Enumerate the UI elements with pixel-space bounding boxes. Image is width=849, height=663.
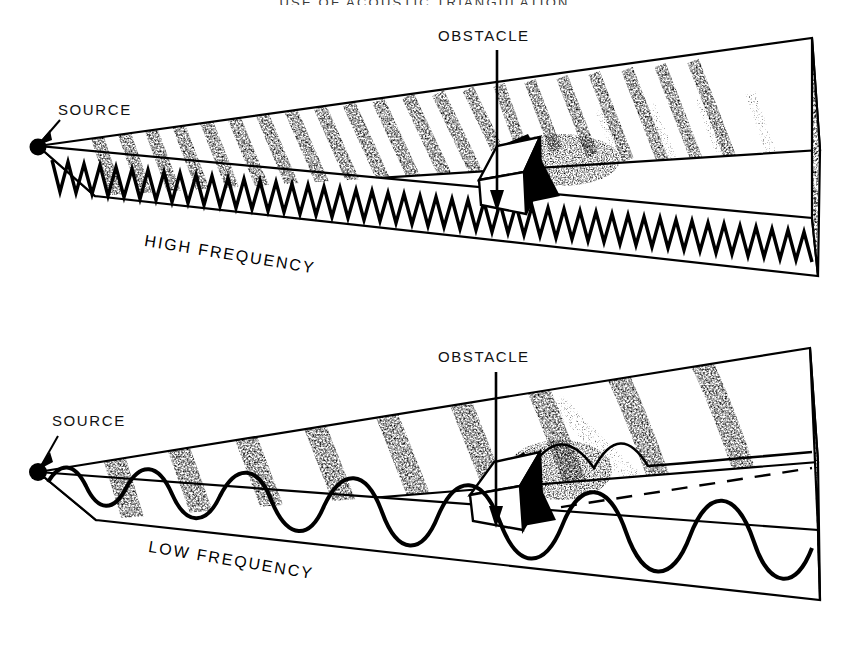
obstacle-label-low: OBSTACLE xyxy=(438,348,530,365)
panel-low-frequency xyxy=(29,348,820,600)
obstacle-label-high: OBSTACLE xyxy=(438,27,530,44)
source-label-high: SOURCE xyxy=(58,101,132,118)
source-label-low: SOURCE xyxy=(52,412,126,429)
figure-canvas: USE OF ACOUSTIC TRIANGULATION SOURCE OBS… xyxy=(0,0,849,663)
diffraction-diagram-svg xyxy=(0,0,849,663)
page-title: USE OF ACOUSTIC TRIANGULATION xyxy=(0,0,849,5)
